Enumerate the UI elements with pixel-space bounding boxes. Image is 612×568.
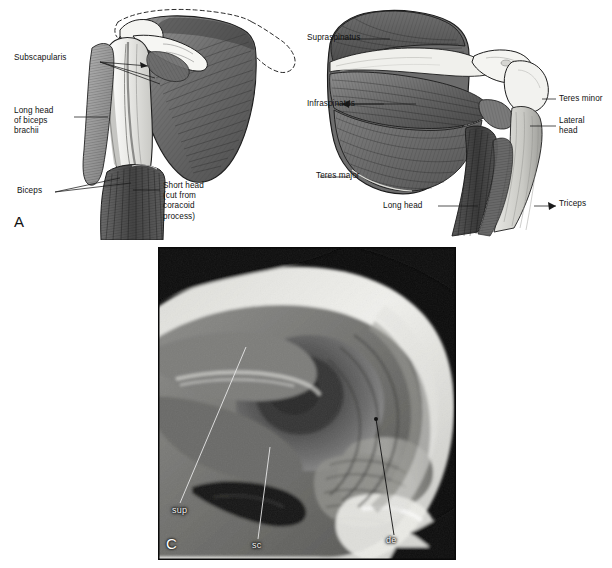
biceps-muscle-belly xyxy=(101,165,165,240)
anatomy-figure: A Subscapularis Long head of biceps brac… xyxy=(0,0,612,568)
label-triceps: Triceps xyxy=(559,199,586,209)
label-supraspinatus: Supraspinatus xyxy=(307,33,360,43)
label-short-head-cut-from-coracoid-process: Short head (cut from coracoid process) xyxy=(163,181,204,222)
label-lateral-head: Lateral head xyxy=(559,116,585,136)
humeral-head xyxy=(504,61,548,113)
teres-minor-muscle xyxy=(479,100,513,129)
label-teres-minor: Teres minor xyxy=(559,94,603,104)
panel-letter-a: A xyxy=(14,214,25,229)
label-infraspinatus: Infraspinatus xyxy=(307,99,355,109)
label-biceps: Biceps xyxy=(17,186,42,196)
mri-label-sup: sup xyxy=(172,505,187,515)
mri-label-de: de xyxy=(386,535,396,545)
label-long-head: Long head xyxy=(383,201,422,211)
panel-c-mri-image xyxy=(158,247,456,560)
panel-letter-c: C xyxy=(166,536,177,551)
label-subscapularis: Subscapularis xyxy=(14,53,66,63)
label-teres-major: Teres major xyxy=(316,171,360,181)
mri-label-sc: sc xyxy=(252,540,261,550)
label-long-head-of-biceps-brachii: Long head of biceps brachii xyxy=(14,106,53,137)
